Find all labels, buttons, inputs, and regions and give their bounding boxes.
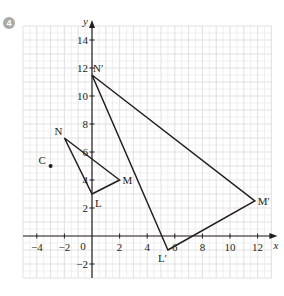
vertex-label: M′	[258, 195, 270, 207]
y-tick-label: 14	[77, 34, 89, 46]
y-axis-label: y	[82, 15, 88, 27]
vertex-label: N′	[93, 62, 103, 74]
center-point-label: C	[39, 154, 46, 166]
x-tick-label: 12	[252, 241, 263, 253]
x-axis-label: x	[272, 239, 278, 251]
y-tick-label: −2	[76, 258, 88, 270]
y-tick-label: 2	[83, 202, 89, 214]
x-tick-label: 2	[117, 241, 123, 253]
triangle-lmn-image	[92, 75, 255, 250]
axes: xy	[23, 15, 278, 278]
center-point-dot	[49, 164, 53, 168]
x-tick-label: −2	[59, 241, 71, 253]
vertex-label: M	[123, 174, 133, 186]
y-tick-label: 8	[83, 118, 89, 130]
x-tick-label: −4	[31, 241, 43, 253]
coordinate-diagram: 4 xy −4−224681012−224681012140 LMNL′M′N′…	[0, 0, 284, 296]
origin-label: 0	[80, 240, 86, 252]
y-axis-arrow-icon	[89, 20, 95, 28]
x-tick-label: 4	[144, 241, 150, 253]
x-tick-label: 8	[200, 241, 206, 253]
y-tick-label: 12	[77, 62, 88, 74]
y-tick-label: 10	[77, 90, 89, 102]
coordinate-grid: xy −4−224681012−224681012140 LMNL′M′N′ C	[0, 0, 284, 296]
vertex-label: L′	[158, 252, 167, 264]
vertex-label: N	[54, 125, 62, 137]
vertex-label: L	[95, 197, 102, 209]
x-tick-label: 10	[225, 241, 237, 253]
